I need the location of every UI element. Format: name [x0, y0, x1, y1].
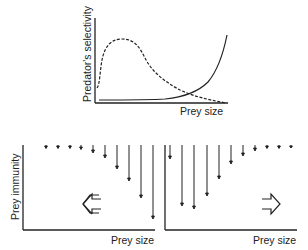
down-arrow-icon [92, 145, 95, 153]
down-arrow-icon [242, 145, 245, 156]
left-arrow-group [45, 145, 155, 219]
left-x-label: Prey size [111, 234, 154, 246]
down-arrow-icon [128, 145, 131, 181]
diagram-canvas: Predator's selectivity Prey size Prey im… [0, 0, 308, 250]
left-direction-arrow-icon [83, 195, 99, 213]
down-arrow-icon [57, 145, 60, 149]
down-arrow-icon [230, 145, 233, 164]
right-x-label: Prey size [253, 234, 296, 246]
down-arrow-icon [140, 145, 143, 198]
down-arrow-icon [116, 145, 119, 169]
bottom-right-panel: Prey size [165, 145, 297, 246]
down-arrow-icon [193, 145, 196, 209]
right-arrow-group [169, 145, 293, 209]
down-arrow-icon [45, 145, 48, 149]
down-arrow-icon [104, 145, 107, 158]
down-arrow-icon [290, 145, 293, 148]
down-arrow-icon [80, 145, 83, 150]
down-arrow-icon [278, 145, 281, 149]
down-arrow-icon [152, 145, 155, 219]
top-x-label: Prey size [180, 105, 223, 117]
down-arrow-icon [266, 145, 269, 149]
dashed-hump-curve [97, 39, 226, 103]
down-arrow-icon [169, 145, 172, 159]
down-arrow-icon [254, 145, 257, 151]
solid-rising-curve [99, 35, 227, 100]
bottom-left-panel: Prey immunity Prey size [9, 145, 155, 246]
down-arrow-icon [206, 145, 209, 196]
down-arrow-icon [69, 145, 72, 149]
right-direction-arrow-icon [262, 194, 280, 214]
top-y-label: Predator's selectivity [81, 5, 93, 102]
left-y-label: Prey immunity [9, 153, 21, 220]
top-panel: Predator's selectivity Prey size [81, 5, 228, 117]
down-arrow-icon [181, 145, 184, 206]
left-direction-arrow-shaft [83, 194, 101, 214]
down-arrow-icon [218, 145, 221, 179]
